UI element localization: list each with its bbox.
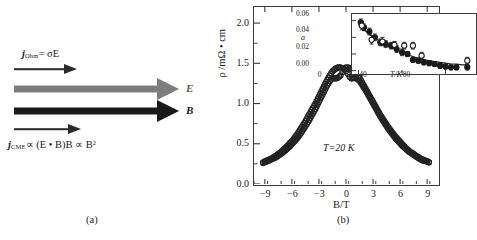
arrow-j-ohm — [14, 62, 78, 76]
inset-x-axis-title: T/K — [390, 70, 402, 79]
inset-y-tick-label: 0.04 — [285, 25, 309, 34]
x-tick-label: 3 — [360, 188, 388, 199]
x-tick-label: 9 — [414, 188, 442, 199]
x-tick-label: −9 — [251, 188, 279, 199]
panel-b-chart: ρ /mΩ • cm −9−6−30369 0.00.51.01.52.0 04… — [215, 0, 465, 240]
y-tick-label: 0.5 — [221, 137, 249, 148]
equation-ohm-rest: = σE — [39, 48, 60, 59]
x-tick-label: 0 — [333, 188, 361, 199]
main-plot-area — [253, 6, 440, 186]
x-tick-label: −6 — [278, 188, 306, 199]
arrow-j-cme — [14, 122, 86, 136]
y-tick-label: 2.0 — [221, 17, 249, 28]
temperature-annotation: T=20 K — [323, 142, 354, 153]
inset-y-tick-label: 0.00 — [285, 59, 309, 68]
x-axis-title: B/T — [333, 199, 349, 210]
inset-y-tick-label: 0.06 — [285, 9, 309, 18]
equation-ohm-subscript: Ohm — [25, 52, 39, 59]
panel-a-schematic: jOhm= σE E B jCME∝ (E • B)B ∝ B2 (a) — [0, 0, 215, 240]
inset-plot-svg — [352, 14, 476, 74]
panel-b-caption: (b) — [337, 214, 349, 225]
x-tick-label: −3 — [305, 188, 333, 199]
inset-x-tick-label: 40 — [353, 70, 373, 79]
arrow-e-field — [14, 78, 182, 100]
arrow-b-label: B — [186, 104, 193, 116]
y-tick-label: 1.0 — [221, 97, 249, 108]
y-tick-label: 1.5 — [221, 57, 249, 68]
equation-ohm: jOhm= σE — [22, 48, 59, 59]
equation-cme-subscript: CME — [11, 143, 26, 150]
inset-y-tick-label: 0.02 — [285, 42, 309, 51]
equation-cme-rest: ∝ (E • B)B ∝ B — [26, 139, 93, 150]
inset-x-tick-label: 0 — [310, 70, 330, 79]
equation-cme: jCME∝ (E • B)B ∝ B2 — [8, 138, 96, 150]
y-tick-label: 0.0 — [221, 178, 249, 189]
panel-a-caption: (a) — [86, 214, 98, 225]
arrow-b-field — [14, 100, 182, 122]
equation-cme-exponent: 2 — [93, 139, 96, 146]
inset-y-axis-title: a — [301, 33, 305, 42]
arrow-e-label: E — [186, 82, 193, 94]
x-tick-label: 6 — [387, 188, 415, 199]
inset-plot-area — [351, 13, 477, 75]
